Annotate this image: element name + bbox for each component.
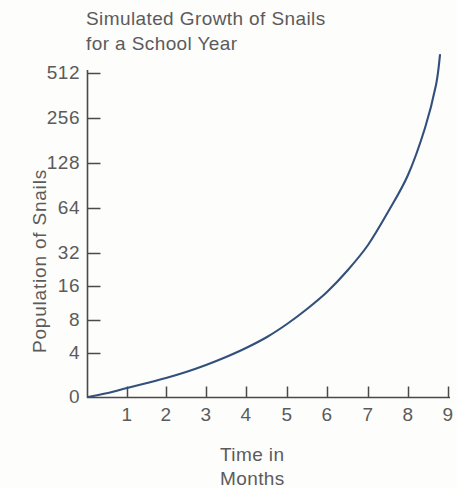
x-tick-label: 1 <box>112 404 142 426</box>
growth-curve <box>88 55 440 397</box>
x-tick-label: 7 <box>353 404 383 426</box>
x-tick-label: 8 <box>393 404 423 426</box>
y-axis-ticks <box>88 74 101 354</box>
x-tick-label: 3 <box>191 404 221 426</box>
chart-figure: Simulated Growth of Snails for a School … <box>0 0 457 488</box>
x-tick-label: 4 <box>231 404 261 426</box>
x-tick-label: 2 <box>151 404 181 426</box>
plot-area <box>0 0 457 488</box>
x-tick-label: 6 <box>312 404 342 426</box>
x-tick-label: 5 <box>272 404 302 426</box>
axis-lines <box>87 70 450 398</box>
x-tick-label: 9 <box>433 404 457 426</box>
x-axis-ticks <box>128 387 449 398</box>
